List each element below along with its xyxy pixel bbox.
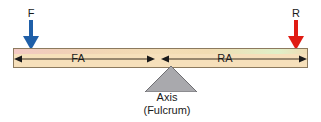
force-arm-label: FA [63, 53, 93, 64]
force-label: F [21, 8, 41, 19]
lever-diagram: F R FA RA [0, 0, 321, 122]
fulcrum-caption: (Fulcrum) [107, 104, 227, 117]
dimension-arrows [13, 48, 308, 68]
resistance-arm-label: RA [210, 53, 240, 64]
axis-caption: Axis [107, 91, 227, 104]
resistance-label: R [286, 8, 306, 19]
